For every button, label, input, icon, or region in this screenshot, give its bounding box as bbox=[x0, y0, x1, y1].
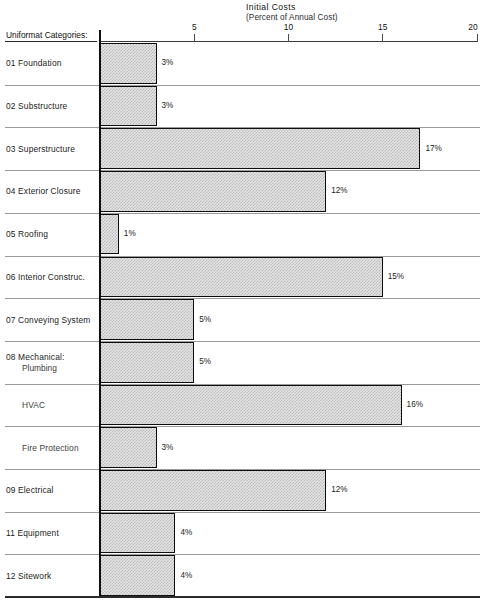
chart-title: Initial Costs bbox=[246, 2, 296, 12]
bar-value-label: 15% bbox=[388, 272, 404, 281]
row-category-label: 04 Exterior Closure bbox=[6, 186, 81, 196]
row-separator bbox=[5, 213, 480, 214]
row-category-label: 03 Superstructure bbox=[6, 144, 75, 154]
chart-row: 17%03 Superstructure bbox=[0, 127, 485, 170]
row-category-label: 06 Interior Construc. bbox=[6, 272, 85, 282]
category-axis-spine bbox=[99, 42, 101, 598]
bar-7 bbox=[100, 299, 194, 340]
chart-row: 1%05 Roofing bbox=[0, 213, 485, 256]
row-category-label-line2: Plumbing bbox=[22, 363, 57, 373]
chart-row: 3%01 Foundation bbox=[0, 42, 485, 85]
row-separator bbox=[5, 85, 480, 86]
chart-row: 15%06 Interior Construc. bbox=[0, 256, 485, 299]
row-category-label: HVAC bbox=[22, 400, 45, 410]
bar-13 bbox=[100, 555, 175, 596]
axis-tick-10 bbox=[288, 34, 289, 42]
chart-row: 5%07 Conveying System bbox=[0, 298, 485, 341]
bar-value-label: 3% bbox=[162, 443, 174, 452]
row-separator bbox=[5, 512, 480, 513]
row-category-label: 09 Electrical bbox=[6, 485, 54, 495]
bar-3 bbox=[100, 128, 420, 169]
chart-row: 4%11 Equipment bbox=[0, 512, 485, 555]
bar-value-label: 3% bbox=[162, 58, 174, 67]
plot-area: 3%01 Foundation3%02 Substructure17%03 Su… bbox=[0, 42, 485, 598]
bar-value-label: 12% bbox=[331, 485, 347, 494]
row-category-label: 07 Conveying System bbox=[6, 315, 90, 325]
row-separator bbox=[5, 426, 480, 427]
axis-tick-label-5: 5 bbox=[192, 22, 197, 32]
bar-value-label: 17% bbox=[425, 144, 441, 153]
row-category-label: 11 Equipment bbox=[6, 528, 59, 538]
bar-11 bbox=[100, 470, 326, 511]
bar-8 bbox=[100, 342, 194, 383]
axis-tick-label-15: 15 bbox=[378, 22, 387, 32]
row-category-label: 05 Roofing bbox=[6, 229, 48, 239]
axis-tick-label-10: 10 bbox=[284, 22, 293, 32]
row-category-label: 01 Foundation bbox=[6, 58, 62, 68]
bar-value-label: 5% bbox=[199, 315, 211, 324]
row-separator bbox=[5, 298, 480, 299]
bar-12 bbox=[100, 513, 175, 554]
chart-row: 3%02 Substructure bbox=[0, 85, 485, 128]
axis-tick-15 bbox=[382, 34, 383, 42]
chart-subtitle: (Percent of Annual Cost) bbox=[246, 13, 338, 22]
bar-value-label: 1% bbox=[124, 229, 136, 238]
bar-value-label: 5% bbox=[199, 357, 211, 366]
bar-9 bbox=[100, 385, 402, 426]
bar-value-label: 16% bbox=[407, 400, 423, 409]
axis-tick-20 bbox=[477, 34, 478, 42]
bar-value-label: 3% bbox=[162, 101, 174, 110]
bar-1 bbox=[100, 43, 157, 84]
axis-tick-5 bbox=[194, 34, 195, 42]
chart-row: 4%12 Sitework bbox=[0, 554, 485, 597]
chart-row: 16%HVAC bbox=[0, 384, 485, 427]
bar-value-label: 12% bbox=[331, 186, 347, 195]
row-category-label: 12 Sitework bbox=[6, 571, 51, 581]
axis-origin-tick bbox=[99, 30, 101, 42]
bar-2 bbox=[100, 86, 157, 127]
bar-5 bbox=[100, 214, 119, 255]
bar-value-label: 4% bbox=[180, 571, 192, 580]
bar-6 bbox=[100, 257, 383, 298]
chart-row: 12%09 Electrical bbox=[0, 469, 485, 512]
row-separator bbox=[5, 554, 480, 555]
axis-tick-label-20: 20 bbox=[468, 22, 477, 32]
row-category-label: 08 Mechanical: bbox=[6, 352, 64, 362]
categories-axis-heading: Uniformat Categories: bbox=[6, 30, 87, 40]
initial-costs-bar-chart: Initial Costs (Percent of Annual Cost) U… bbox=[0, 0, 485, 604]
row-category-label: 02 Substructure bbox=[6, 101, 67, 111]
row-separator bbox=[5, 341, 480, 342]
chart-row: 3%Fire Protection bbox=[0, 426, 485, 469]
chart-row: 12%04 Exterior Closure bbox=[0, 170, 485, 213]
chart-row: 5%08 Mechanical:Plumbing bbox=[0, 341, 485, 384]
chart-baseline bbox=[5, 596, 480, 598]
row-category-label: Fire Protection bbox=[22, 443, 79, 453]
bar-10 bbox=[100, 427, 157, 468]
bar-4 bbox=[100, 171, 326, 212]
bar-value-label: 4% bbox=[180, 528, 192, 537]
